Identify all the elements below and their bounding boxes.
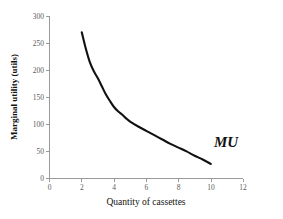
x-tick-label-0: 0 (48, 183, 52, 192)
y-axis-title: Marginal utility (utils) (9, 54, 19, 140)
x-axis-title: Quantity of cassettes (106, 197, 185, 207)
x-tick-label-12: 12 (239, 183, 247, 192)
series-label-mu: MU (213, 134, 239, 150)
y-tick-label-300: 300 (33, 12, 45, 21)
y-axis: 0 50 100 150 200 250 300 Marginal utilit… (9, 12, 50, 183)
chart-canvas: 0 50 100 150 200 250 300 Marginal utilit… (0, 0, 283, 219)
marginal-utility-chart: 0 50 100 150 200 250 300 Marginal utilit… (0, 0, 283, 219)
y-axis-ticks (46, 17, 50, 179)
y-tick-label-150: 150 (33, 93, 45, 102)
y-tick-label-250: 250 (33, 39, 45, 48)
y-tick-label-200: 200 (33, 66, 45, 75)
x-axis: 0 2 4 6 8 10 12 Quantity of cassettes (48, 179, 247, 208)
marginal-utility-curve (82, 32, 211, 164)
x-tick-label-2: 2 (80, 183, 84, 192)
x-tick-label-8: 8 (177, 183, 181, 192)
y-tick-label-100: 100 (33, 120, 45, 129)
x-tick-label-4: 4 (112, 183, 116, 192)
y-tick-label-0: 0 (40, 174, 44, 183)
x-axis-ticks (50, 179, 244, 183)
x-tick-label-6: 6 (145, 183, 149, 192)
y-tick-label-50: 50 (37, 147, 45, 156)
x-tick-label-10: 10 (207, 183, 215, 192)
